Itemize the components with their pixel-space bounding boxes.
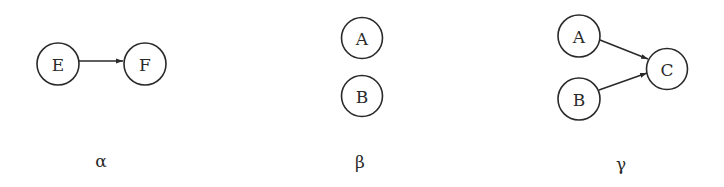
panel-label-gamma: γ (616, 154, 626, 174)
edge-a-to-c (600, 40, 648, 59)
node-a-label: A (572, 27, 586, 47)
node-f: F (124, 43, 166, 85)
node-a-label: A (355, 29, 369, 49)
node-e: E (37, 43, 79, 85)
node-b: B (342, 76, 383, 117)
panel-gamma: A B C γ (558, 15, 688, 174)
node-b: B (558, 78, 600, 120)
node-a: A (558, 15, 600, 57)
panel-beta: A B β (342, 18, 383, 173)
diagram-canvas: E F α A B β A B C (0, 0, 724, 187)
node-b-label: B (573, 90, 586, 110)
node-a: A (342, 18, 383, 59)
node-b-label: B (356, 87, 369, 107)
node-f-label: F (139, 55, 151, 75)
edge-b-to-c (599, 73, 647, 90)
node-c: C (647, 49, 688, 90)
node-e-label: E (52, 55, 64, 75)
panel-label-alpha: α (95, 151, 107, 171)
panel-alpha: E F α (37, 43, 166, 171)
node-c-label: C (660, 60, 673, 80)
panel-label-beta: β (355, 152, 365, 172)
